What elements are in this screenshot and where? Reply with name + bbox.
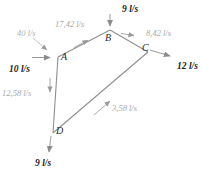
external-flow-label-12: 12 l/s [177,62,198,72]
pipe-flow-label-AD: 12,58 l/s [2,89,31,98]
external-flow-label-40: 40 l/s [17,29,36,38]
external-flow-label-10: 10 l/s [9,65,30,75]
pipe-edge-DC [53,52,148,133]
pipe-edge-AD [53,57,58,133]
external-flow-label-9-bottom: 9 l/s [35,159,51,169]
external-arrow-12-icon [150,50,170,56]
pipe-flow-label-DC: 3,58 l/s [112,104,137,113]
network-graphics [0,0,217,176]
node-label-A: A [61,52,67,62]
external-flow-label-9-top: 9 l/s [122,5,138,15]
external-arrow-40-icon [33,38,47,50]
pipe-flow-label-AB: 17,42 l/s [55,20,84,29]
node-label-B: B [105,33,111,43]
flow-arrow-AB-icon [74,40,88,47]
node-label-D: D [56,126,63,136]
pipe-edges [53,30,148,133]
flow-arrow-BC-icon [121,34,134,36]
pipe-network-diagram: A B C D 17,42 l/s 8,42 l/s 12,58 l/s 3,5… [0,0,217,176]
external-arrow-9-bottom-icon [49,136,51,152]
flow-arrow-DC-icon [94,101,110,115]
node-label-C: C [142,43,149,53]
pipe-flow-label-BC: 8,42 l/s [146,29,171,38]
